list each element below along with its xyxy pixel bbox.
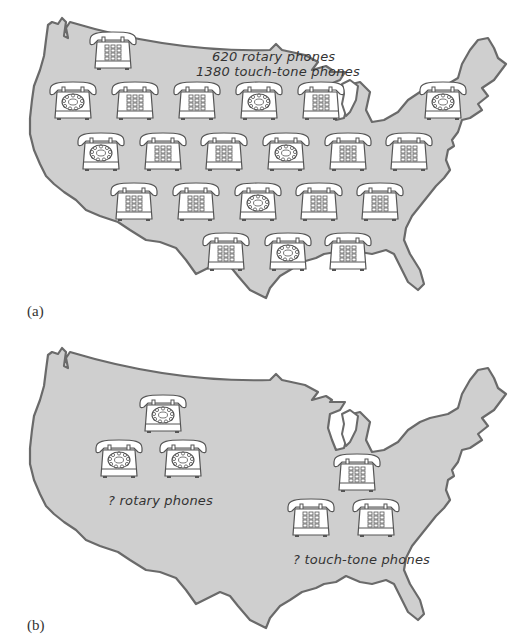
rotary-phone-icon <box>416 80 470 124</box>
touch-tone-phone-icon <box>108 80 162 124</box>
rotary-phone-icon <box>231 181 285 225</box>
touch-tone-phone-icon <box>349 497 403 541</box>
touch-tone-phone-icon <box>199 231 253 275</box>
rotary-unknown-caption: ? rotary phones <box>108 493 213 508</box>
touch-tone-phone-icon <box>292 181 346 225</box>
panel-a: 620 rotary phones 1380 touch-tone phones… <box>0 0 517 322</box>
touch-tone-phone-icon <box>353 181 407 225</box>
touch-tone-phone-icon <box>294 80 348 124</box>
rotary-phone-icon <box>232 80 286 124</box>
rotary-phone-icon <box>156 438 210 482</box>
rotary-phone-icon <box>136 393 190 437</box>
touch-tone-phone-icon <box>284 497 338 541</box>
us-map-b <box>0 330 517 630</box>
touch-tone-phone-icon <box>86 30 140 74</box>
touch-tone-phone-icon <box>136 131 190 175</box>
touch-tone-phone-icon <box>321 231 375 275</box>
panel-b: ? rotary phones ? touch-tone phones (b) <box>0 290 517 644</box>
rotary-phone-icon <box>92 438 146 482</box>
rotary-phone-icon <box>46 80 100 124</box>
rotary-phone-icon <box>261 231 315 275</box>
touch-tone-unknown-caption: ? touch-tone phones <box>293 552 430 567</box>
touch-tone-phone-icon <box>321 131 375 175</box>
rotary-phone-icon <box>74 131 128 175</box>
touch-tone-phone-icon <box>330 452 384 496</box>
touch-tone-phone-icon <box>169 181 223 225</box>
touch-tone-phone-icon <box>382 131 436 175</box>
touch-tone-phone-icon <box>107 181 161 225</box>
rotary-phone-icon <box>259 131 313 175</box>
panel-label-b: (b) <box>27 617 45 634</box>
touch-tone-count-caption: 1380 touch-tone phones <box>196 64 360 79</box>
touch-tone-phone-icon <box>170 80 224 124</box>
touch-tone-phone-icon <box>197 131 251 175</box>
rotary-count-caption: 620 rotary phones <box>212 49 335 64</box>
